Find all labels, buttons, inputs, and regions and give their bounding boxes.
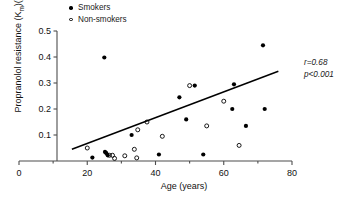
y-axis-tick-labels: 0.10.20.30.40.5 [38,26,51,140]
legend-label-non-smokers: Non-smokers [78,14,127,26]
axes [19,31,292,161]
open-circle-icon [66,18,76,22]
data-point-smoker [130,133,134,137]
data-point-non-smoker [136,128,140,132]
y-tick-label: 0.2 [38,104,51,114]
data-point-smoker [201,152,205,156]
data-point-smoker [90,156,94,160]
legend-label-smokers: Smokers [78,2,110,14]
x-tick-label: 80 [287,168,297,178]
data-point-smoker [232,82,236,86]
data-point-non-smoker [222,99,226,103]
data-point-smoker [184,117,188,121]
x-tick-label: 20 [82,168,92,178]
data-point-smoker [230,107,234,111]
data-point-smoker [261,43,265,47]
y-axis-title-subscript: m [18,6,25,11]
data-points-non-smokers [85,84,241,161]
x-axis-title: Age (years) [0,181,352,191]
data-point-smoker [263,107,267,111]
scatter-plot-figure: 0.10.20.30.40.5 020406080 Smokers Non-sm… [0,0,352,203]
regression-trendline [72,71,278,149]
x-tick-label: 60 [219,168,229,178]
legend-item-non-smokers: Non-smokers [66,14,127,26]
data-point-non-smoker [113,156,117,160]
data-point-non-smoker [123,154,127,158]
p-value: p<0.001 [304,69,334,81]
data-point-non-smoker [135,156,139,160]
correlation-value: r=0.68 [304,57,334,69]
data-point-non-smoker [237,143,241,147]
y-axis-title: Propranolol resistance (Km)(ng/ml) [13,0,25,119]
legend-item-smokers: Smokers [66,2,127,14]
data-point-smoker [193,84,197,88]
data-points-smokers [90,43,267,160]
y-tick-label: 0.3 [38,78,51,88]
legend: Smokers Non-smokers [66,2,127,25]
y-axis-title-tail: )(ng/ml) [13,0,23,6]
y-tick-label: 0.1 [38,130,51,140]
x-axis-ticks [19,161,292,165]
data-point-smoker [177,95,181,99]
trendline [72,71,278,149]
statistics-annotation: r=0.68 p<0.001 [304,57,334,81]
filled-circle-icon [66,6,76,9]
data-point-non-smoker [160,134,164,138]
data-point-smoker [244,124,248,128]
data-point-non-smoker [132,147,136,151]
data-point-smoker [157,152,161,156]
y-axis-title-head: Propranolol resistance (K [13,12,23,113]
data-point-non-smoker [188,84,192,88]
x-axis-tick-labels: 020406080 [16,168,297,178]
data-point-smoker [106,153,110,157]
y-tick-label: 0.5 [38,26,51,36]
y-tick-label: 0.4 [38,52,51,62]
data-point-non-smoker [205,124,209,128]
plot-canvas: 0.10.20.30.40.5 020406080 [0,0,352,203]
x-tick-label: 40 [150,168,160,178]
data-point-smoker [102,55,106,59]
data-point-non-smoker [85,146,89,150]
x-tick-label: 0 [16,168,21,178]
